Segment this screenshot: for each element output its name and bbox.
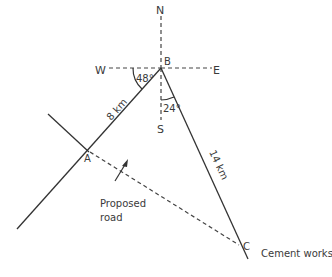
angle-48-label: 48°: [136, 73, 154, 84]
angle-arc-24: [161, 97, 174, 100]
distance-BA-label: 8 km: [104, 96, 129, 122]
west-label: W: [95, 64, 106, 77]
point-B-label: B: [164, 56, 171, 67]
proposed-road-label-line1: Proposed: [100, 198, 146, 209]
road-cross-A: [48, 114, 89, 152]
east-label: E: [213, 64, 220, 77]
point-C-label: C: [243, 241, 250, 252]
road-BC: [161, 68, 248, 259]
bearing-diagram: N S W E B A C Cement works 48° 24° 8 km …: [0, 0, 332, 277]
arrowhead-icon: [122, 159, 128, 167]
cement-works-label: Cement works: [261, 248, 332, 259]
proposed-road-label-line2: road: [100, 212, 123, 223]
angle-24-label: 24°: [163, 103, 181, 114]
north-label: N: [156, 4, 164, 17]
south-label: S: [157, 123, 164, 136]
point-A-label: A: [84, 153, 91, 164]
